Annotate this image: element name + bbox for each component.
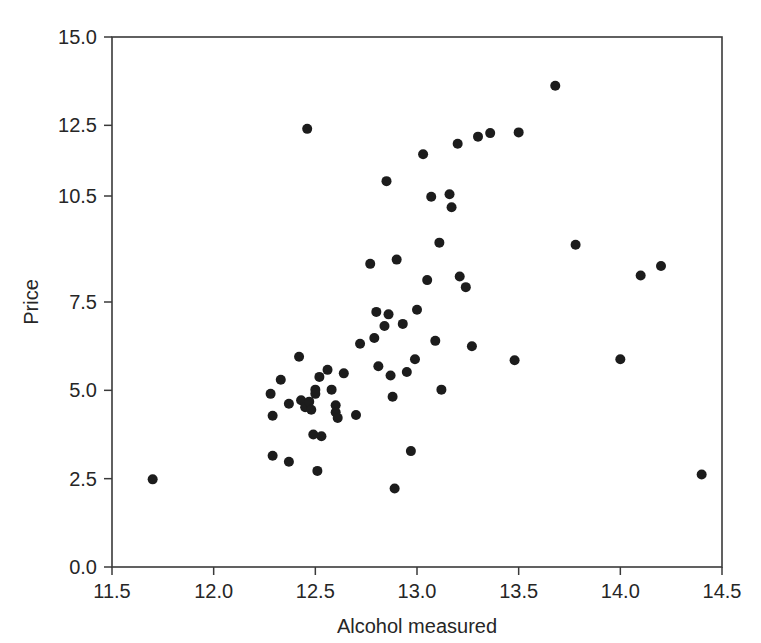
y-tick-label-group: 0.02.55.07.510.512.515.0 (58, 26, 97, 578)
plot-frame-border (112, 37, 722, 567)
data-point (373, 361, 383, 371)
data-point (390, 484, 400, 494)
data-point (355, 339, 365, 349)
tick-mark-group (104, 37, 722, 575)
data-point (473, 132, 483, 142)
data-point (392, 255, 402, 265)
data-point (386, 370, 396, 380)
y-tick-label: 2.5 (69, 468, 97, 490)
data-point (636, 271, 646, 281)
x-tick-label: 13.5 (499, 580, 538, 602)
data-point (434, 238, 444, 248)
x-tick-label: 14.0 (601, 580, 640, 602)
y-tick-label: 10.5 (58, 185, 97, 207)
data-point (310, 389, 320, 399)
data-point (268, 451, 278, 461)
data-point (333, 413, 343, 423)
data-point (323, 365, 333, 375)
data-point (306, 405, 316, 415)
data-point (365, 259, 375, 269)
data-point (284, 399, 294, 409)
data-point (485, 128, 495, 138)
data-point (615, 354, 625, 364)
data-point (327, 385, 337, 395)
data-point (351, 410, 361, 420)
data-point (371, 307, 381, 317)
data-point-group (148, 81, 707, 494)
plot-canvas: 11.512.012.513.013.514.014.5 0.02.55.07.… (0, 0, 761, 643)
data-point (422, 275, 432, 285)
x-tick-label: 11.5 (93, 580, 130, 602)
data-point (406, 446, 416, 456)
data-point (410, 354, 420, 364)
x-tick-label: 12.0 (194, 580, 233, 602)
y-tick-label: 0.0 (69, 556, 97, 578)
data-point (266, 389, 276, 399)
data-point (461, 282, 471, 292)
data-point (571, 240, 581, 250)
data-point (314, 372, 324, 382)
y-tick-label: 7.5 (69, 291, 97, 313)
data-point (284, 457, 294, 467)
data-point (455, 272, 465, 282)
y-tick-label: 5.0 (69, 379, 97, 401)
data-point (447, 202, 457, 212)
data-point (148, 474, 158, 484)
data-point (369, 333, 379, 343)
data-point (514, 127, 524, 137)
data-point (697, 469, 707, 479)
data-point (312, 466, 322, 476)
x-tick-label: 13.0 (398, 580, 437, 602)
y-tick-label: 12.5 (58, 114, 97, 136)
data-point (382, 176, 392, 186)
data-point (268, 411, 278, 421)
data-point (510, 355, 520, 365)
x-tick-label-group: 11.512.012.513.013.514.014.5 (93, 580, 741, 602)
data-point (379, 321, 389, 331)
data-point (388, 392, 398, 402)
data-point (430, 336, 440, 346)
data-point (384, 309, 394, 319)
data-point (445, 189, 455, 199)
data-point (302, 124, 312, 134)
data-point (467, 341, 477, 351)
scatter-plot-figure: 11.512.012.513.013.514.014.5 0.02.55.07.… (0, 0, 761, 643)
data-point (276, 375, 286, 385)
x-tick-label: 12.5 (296, 580, 335, 602)
data-point (402, 367, 412, 377)
data-point (316, 431, 326, 441)
data-point (550, 81, 560, 91)
data-point (656, 261, 666, 271)
data-point (436, 385, 446, 395)
data-point (418, 149, 428, 159)
y-axis-title: Price (20, 279, 42, 325)
data-point (426, 192, 436, 202)
data-point (453, 139, 463, 149)
data-point (412, 305, 422, 315)
data-point (398, 319, 408, 329)
data-point (294, 352, 304, 362)
y-tick-label: 15.0 (58, 26, 97, 48)
x-axis-title: Alcohol measured (337, 615, 497, 637)
data-point (339, 368, 349, 378)
x-tick-label: 14.5 (703, 580, 742, 602)
